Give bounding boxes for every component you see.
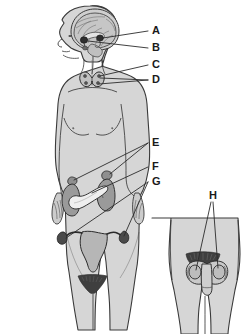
pituitary-lobe bbox=[83, 46, 88, 50]
ovary-left bbox=[57, 232, 67, 244]
nose-profile bbox=[58, 39, 62, 47]
testis-right bbox=[213, 265, 225, 279]
brain bbox=[74, 13, 116, 48]
pituitary-gland bbox=[80, 37, 87, 43]
label-a: A bbox=[152, 25, 160, 36]
eye bbox=[68, 35, 71, 37]
label-d: D bbox=[152, 74, 160, 85]
label-e: E bbox=[152, 137, 159, 148]
label-f: F bbox=[152, 161, 159, 172]
label-g: G bbox=[152, 176, 161, 187]
label-b: B bbox=[152, 42, 160, 53]
mouth-line bbox=[62, 51, 70, 52]
label-h: H bbox=[209, 190, 217, 201]
male-lower-body-inset bbox=[152, 218, 240, 334]
anatomy-illustration bbox=[0, 0, 248, 334]
penis bbox=[201, 264, 212, 295]
endocrine-diagram-page: A B C D E F G H bbox=[0, 0, 248, 334]
label-c: C bbox=[152, 59, 160, 70]
neck-outline bbox=[81, 60, 84, 73]
female-body-figure bbox=[52, 6, 150, 330]
testis-left bbox=[189, 265, 201, 279]
chin-line bbox=[63, 55, 79, 58]
